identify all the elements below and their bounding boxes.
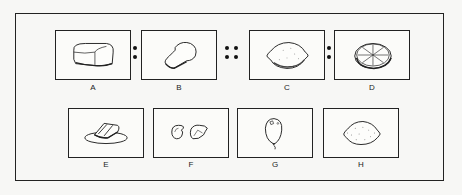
option-label-a: A: [55, 83, 131, 92]
lemon-icon: [324, 109, 398, 157]
cake-slice-on-plate-icon: [69, 109, 143, 157]
lemon-peel-pieces-icon: [154, 109, 228, 157]
option-card-h[interactable]: [323, 108, 399, 158]
bread-slice-icon: [142, 31, 216, 79]
option-label-f: F: [153, 160, 229, 169]
option-card-e[interactable]: [68, 108, 144, 158]
option-card-b[interactable]: [141, 30, 217, 80]
option-label-g: G: [237, 160, 313, 169]
option-card-f[interactable]: [153, 108, 229, 158]
option-label-e: E: [68, 160, 144, 169]
lemon-slice-icon: [335, 31, 409, 79]
option-label-d: D: [334, 83, 410, 92]
option-card-d[interactable]: [334, 30, 410, 80]
option-card-g[interactable]: [237, 108, 313, 158]
option-label-h: H: [323, 160, 399, 169]
option-card-c[interactable]: [249, 30, 325, 80]
lemon-icon: [250, 31, 324, 79]
ratio-colon-1: [133, 46, 137, 60]
ratio-double-colon: [225, 46, 239, 60]
ratio-colon-2: [327, 46, 331, 60]
option-card-a[interactable]: [55, 30, 131, 80]
option-label-b: B: [141, 83, 217, 92]
bread-loaf-icon: [56, 31, 130, 79]
balloon-icon: [238, 109, 312, 157]
option-label-c: C: [249, 83, 325, 92]
